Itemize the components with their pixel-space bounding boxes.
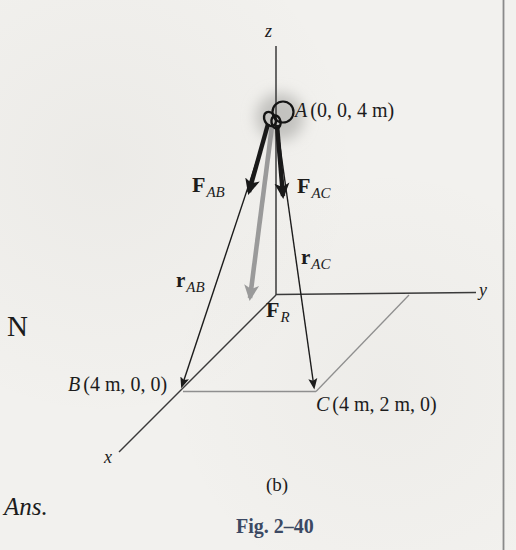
vector-rAB-label: rAB xyxy=(176,270,205,295)
FAC-subscript: AC xyxy=(311,185,330,201)
FAB-subscript: AB xyxy=(206,184,224,200)
point-C-label: C(4 m, 2 m, 0) xyxy=(316,394,437,414)
vector-rAC-label: rAC xyxy=(301,247,331,272)
subfigure-label: (b) xyxy=(266,475,288,494)
vector-diagram-svg xyxy=(0,0,516,550)
vector-FR-label: FR xyxy=(266,299,290,325)
figure-caption: Fig. 2–40 xyxy=(236,516,314,536)
rAC-symbol: r xyxy=(301,245,310,269)
answer-tag: Ans. xyxy=(4,494,48,519)
plane-edge-yc xyxy=(316,295,409,392)
rAB-subscript: AB xyxy=(186,279,204,295)
point-A-label: A(0, 0, 4 m) xyxy=(295,100,394,120)
x-axis-label: x xyxy=(104,448,112,466)
FAC-symbol: F xyxy=(297,173,310,198)
point-C-coords: (4 m, 2 m, 0) xyxy=(332,393,436,415)
point-A-letter: A xyxy=(295,99,307,121)
vector-FAC-label: FAC xyxy=(297,175,331,201)
rAB-symbol: r xyxy=(176,268,185,292)
margin-unit-text: N xyxy=(7,312,28,341)
FR-subscript: R xyxy=(280,309,289,325)
FR-symbol: F xyxy=(266,297,279,322)
z-axis-label: z xyxy=(265,22,272,40)
point-B-coords: (4 m, 0, 0) xyxy=(83,373,167,395)
rAC-subscript: AC xyxy=(311,256,330,272)
y-axis-label: y xyxy=(479,281,487,299)
point-A-coords: (0, 0, 4 m) xyxy=(310,99,394,121)
y-axis-line xyxy=(276,293,476,295)
FAB-symbol: F xyxy=(192,172,205,197)
point-B-letter: B xyxy=(68,373,80,395)
vector-FAB-label: FAB xyxy=(192,174,225,200)
point-C-letter: C xyxy=(316,393,329,415)
textbook-figure-page: z y x A(0, 0, 4 m) B(4 m, 0, 0) C(4 m, 2… xyxy=(0,0,516,550)
point-B-label: B(4 m, 0, 0) xyxy=(68,374,167,394)
